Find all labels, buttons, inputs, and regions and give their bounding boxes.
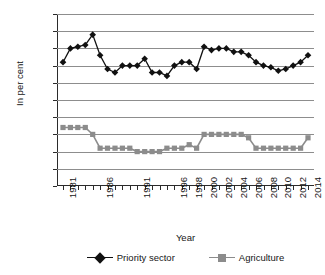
x-tick-label: 2012 xyxy=(297,177,308,198)
data-point-marker xyxy=(305,135,310,140)
data-point-marker xyxy=(216,132,221,137)
data-point-marker xyxy=(194,146,199,151)
x-tick-mark xyxy=(85,186,86,190)
data-point-marker xyxy=(224,132,229,137)
x-tick-label: 2014 xyxy=(312,177,323,198)
data-point-marker xyxy=(275,67,282,74)
data-point-marker xyxy=(223,45,230,52)
x-tick-mark xyxy=(93,186,94,190)
data-point-marker xyxy=(209,132,214,137)
legend-item[interactable]: Agriculture xyxy=(209,252,284,263)
data-point-marker xyxy=(268,64,275,71)
x-tick-mark xyxy=(152,186,153,190)
x-tick-mark xyxy=(130,186,131,190)
data-point-marker xyxy=(68,125,73,130)
x-tick-label: 2000 xyxy=(208,177,219,198)
legend-item[interactable]: Priority sector xyxy=(87,252,175,263)
data-point-marker xyxy=(202,132,207,137)
data-point-marker xyxy=(298,146,303,151)
data-point-marker xyxy=(75,43,82,50)
data-point-marker xyxy=(216,45,223,52)
x-tick-label: 1986 xyxy=(104,177,115,198)
x-tick-mark xyxy=(160,186,161,190)
x-tick-mark xyxy=(189,186,190,190)
x-tick-mark xyxy=(122,186,123,190)
data-point-marker xyxy=(156,69,163,76)
data-point-marker xyxy=(231,132,236,137)
data-point-marker xyxy=(260,62,267,69)
x-tick-mark xyxy=(100,186,101,190)
x-tick-mark xyxy=(63,186,64,190)
data-point-marker xyxy=(239,132,244,137)
data-point-marker xyxy=(246,135,251,140)
data-point-marker xyxy=(98,146,103,151)
data-point-marker xyxy=(179,146,184,151)
data-point-marker xyxy=(135,149,140,154)
data-point-marker xyxy=(164,146,169,151)
data-point-marker xyxy=(60,125,65,130)
data-point-marker xyxy=(261,146,266,151)
data-point-marker xyxy=(104,66,111,73)
series-layer xyxy=(57,14,314,186)
x-tick-label: 1991 xyxy=(141,177,152,198)
x-tick-label: 2006 xyxy=(253,177,264,198)
data-point-marker xyxy=(172,146,177,151)
data-point-marker xyxy=(283,146,288,151)
data-point-marker xyxy=(105,146,110,151)
data-point-marker xyxy=(187,142,192,147)
data-point-marker xyxy=(97,52,104,59)
y-axis-title: In per cent xyxy=(14,39,25,129)
data-point-marker xyxy=(150,149,155,154)
diamond-marker-icon xyxy=(87,253,113,263)
data-point-marker xyxy=(238,49,245,56)
data-point-marker xyxy=(268,146,273,151)
chart-container: In per cent 05101520253035404550 1981198… xyxy=(0,0,325,275)
data-point-marker xyxy=(253,146,258,151)
x-tick-label: 2002 xyxy=(223,177,234,198)
data-point-marker xyxy=(142,149,147,154)
data-point-marker xyxy=(75,125,80,130)
data-point-marker xyxy=(208,47,215,54)
plot-area: 05101520253035404550 xyxy=(57,14,314,186)
data-point-marker xyxy=(120,146,125,151)
data-point-marker xyxy=(230,49,237,56)
x-axis-title: Year xyxy=(57,232,314,243)
data-point-marker xyxy=(201,43,208,50)
data-point-marker xyxy=(112,146,117,151)
x-tick-mark xyxy=(137,186,138,190)
data-point-marker xyxy=(157,149,162,154)
x-tick-label: 2010 xyxy=(282,177,293,198)
data-point-marker xyxy=(282,66,289,73)
x-tick-mark xyxy=(204,186,205,190)
x-tick-label: 1981 xyxy=(67,177,78,198)
data-point-marker xyxy=(127,62,134,69)
legend-label: Agriculture xyxy=(239,252,284,263)
data-point-marker xyxy=(127,146,132,151)
x-tick-mark xyxy=(167,186,168,190)
data-point-marker xyxy=(60,59,67,66)
x-tick-label: 1998 xyxy=(193,177,204,198)
x-tick-label: 2004 xyxy=(238,177,249,198)
legend-label: Priority sector xyxy=(117,252,175,263)
square-marker-icon xyxy=(209,253,235,263)
data-point-marker xyxy=(290,62,297,69)
x-tick-mark xyxy=(115,186,116,190)
x-tick-label: 1996 xyxy=(178,177,189,198)
x-tick-mark xyxy=(174,186,175,190)
x-tick-mark xyxy=(308,186,309,190)
data-point-marker xyxy=(90,132,95,137)
data-point-marker xyxy=(178,59,185,66)
y-tick-mark xyxy=(53,186,57,187)
x-tick-label: 2008 xyxy=(268,177,279,198)
x-tick-mark xyxy=(293,186,294,190)
x-tick-mark xyxy=(219,186,220,190)
data-point-marker xyxy=(149,69,156,76)
data-point-marker xyxy=(67,45,74,52)
data-point-marker xyxy=(276,146,281,151)
data-point-marker xyxy=(291,146,296,151)
chart-legend: Priority sectorAgriculture xyxy=(57,252,314,263)
data-point-marker xyxy=(83,125,88,130)
